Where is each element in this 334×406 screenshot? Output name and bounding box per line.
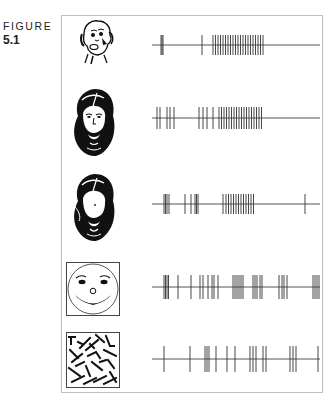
spike-train-3 [152,194,320,214]
spike-train-5 [152,346,320,372]
spike-train-raster [0,0,334,406]
spike-train-1 [152,35,320,55]
spike-train-2 [152,107,320,129]
spike-train-4 [152,275,320,299]
